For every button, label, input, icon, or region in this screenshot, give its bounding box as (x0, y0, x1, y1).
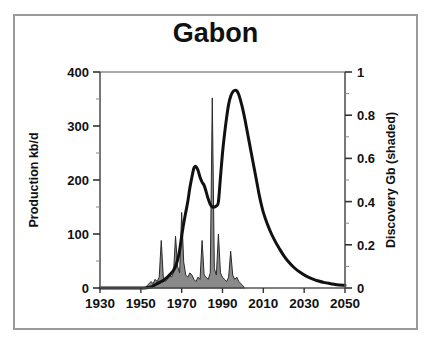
x-tick-label: 2010 (248, 296, 278, 311)
axis-lines (100, 72, 345, 288)
right-tick-label: 0.8 (357, 108, 375, 123)
discovery-series-area (145, 98, 245, 288)
right-axis-ticklabels: 00.20.40.60.81 (357, 65, 376, 296)
left-tick-label: 200 (67, 173, 89, 188)
x-tick-label: 1950 (126, 296, 156, 311)
left-axis-ticks (93, 72, 100, 288)
right-tick-label: 0.6 (357, 151, 375, 166)
chart-svg: 0100200300400 00.20.40.60.81 19301950197… (0, 0, 431, 346)
x-tick-label: 1970 (167, 296, 197, 311)
plot-area-wrapper: 0100200300400 00.20.40.60.81 19301950197… (0, 0, 431, 346)
left-tick-label: 0 (82, 281, 89, 296)
production-series-line (100, 90, 345, 288)
left-tick-label: 300 (67, 119, 89, 134)
left-axis-ticklabels: 0100200300400 (67, 65, 89, 296)
x-tick-label: 1990 (207, 296, 237, 311)
left-tick-label: 400 (67, 65, 89, 80)
bottom-axis-ticklabels: 1930195019701990201020302050 (85, 296, 360, 311)
x-tick-label: 1930 (85, 296, 115, 311)
left-tick-label: 100 (67, 227, 89, 242)
left-axis-title: Production kb/d (27, 132, 41, 227)
right-tick-label: 0.2 (357, 238, 375, 253)
right-axis-ticks (345, 72, 352, 288)
chart-figure: Gabon 0100200300400 00.20.40.60.81 19301… (0, 0, 431, 346)
right-tick-label: 0 (357, 281, 364, 296)
x-tick-label: 2050 (330, 296, 360, 311)
right-axis-title: Discovery Gb (shaded) (384, 112, 398, 248)
right-tick-label: 0.4 (357, 195, 376, 210)
right-tick-label: 1 (357, 65, 364, 80)
x-tick-label: 2030 (289, 296, 319, 311)
